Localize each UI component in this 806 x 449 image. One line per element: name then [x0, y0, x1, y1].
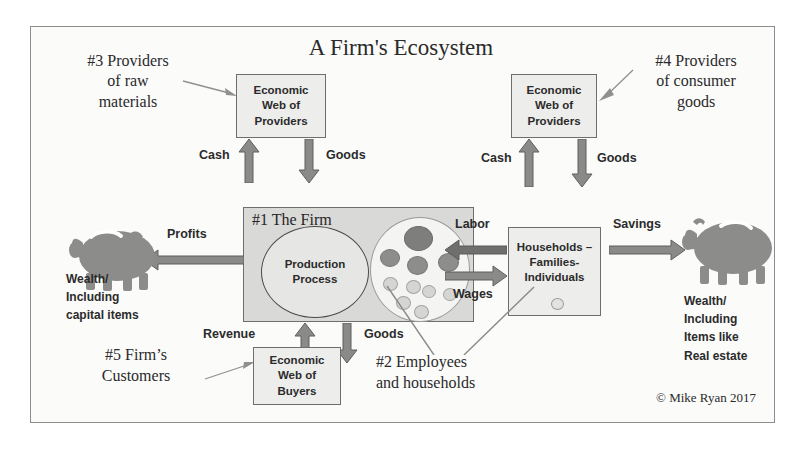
box-buyers-line2: Web of	[278, 368, 316, 383]
label-goods-left: Goods	[326, 148, 366, 162]
label-cash-left: Cash	[199, 148, 230, 162]
box-economic-web-of-providers-right[interactable]: Economic Web of Providers	[511, 74, 597, 138]
pointer-lines-employees	[386, 282, 541, 355]
box-economic-web-of-buyers[interactable]: Economic Web of Buyers	[253, 347, 341, 405]
wealth-right-line4: Real estate	[684, 347, 747, 365]
production-line1: Production	[285, 257, 346, 272]
annotation-providers-consumer-line2: of consumer	[621, 71, 771, 91]
annotation-employees-line1: #2 Employees	[376, 352, 475, 373]
annotation-customers: #5 Firm’s Customers	[61, 345, 211, 387]
piggy-bank-right-icon	[681, 213, 776, 289]
copyright-notice: © Mike Ryan 2017	[656, 390, 756, 406]
annotation-employees-line2: and households	[376, 373, 475, 394]
arrow-savings	[609, 239, 685, 261]
box-providers-left-line1: Economic	[254, 83, 309, 98]
box-buyers-line3: Buyers	[278, 384, 317, 399]
box-providers-right-line2: Web of	[535, 98, 573, 113]
production-line2: Process	[293, 272, 338, 287]
label-revenue: Revenue	[203, 327, 255, 341]
wealth-right-line1: Wealth/	[684, 292, 747, 310]
employee-dot	[380, 249, 400, 267]
annotation-providers-consumer: #4 Providers of consumer goods	[621, 51, 771, 112]
pointer-line-customers	[203, 359, 258, 383]
wealth-right-line2: Including	[684, 310, 747, 328]
arrow-goods-left	[298, 139, 320, 183]
label-cash-right: Cash	[481, 151, 512, 165]
diagram-frame: A Firm's Ecosystem #3 Providers of raw m…	[30, 26, 775, 423]
arrow-goods-right	[571, 139, 593, 187]
annotation-providers-consumer-line1: #4 Providers	[621, 51, 771, 71]
wealth-right-line3: Items like	[684, 328, 747, 346]
box-providers-right-line3: Providers	[527, 114, 580, 129]
arrow-cash-left	[238, 139, 260, 183]
pointer-line-providers-raw	[181, 77, 241, 101]
employee-dot	[404, 226, 433, 251]
box-providers-left-line2: Web of	[262, 98, 300, 113]
label-goods-right: Goods	[597, 151, 637, 165]
box-economic-web-of-providers-left[interactable]: Economic Web of Providers	[236, 74, 326, 138]
box-providers-right-line1: Economic	[527, 83, 582, 98]
box-households-line2: Families-	[530, 255, 580, 270]
pointer-line-providers-consumer	[597, 67, 637, 103]
diagram-title: A Firm's Ecosystem	[221, 35, 581, 61]
label-profits: Profits	[167, 227, 207, 241]
box-buyers-line1: Economic	[270, 353, 325, 368]
label-savings: Savings	[613, 217, 661, 231]
box-providers-left-line3: Providers	[254, 114, 307, 129]
wealth-left-line3: capital items	[66, 306, 139, 324]
annotation-employees: #2 Employees and households	[376, 352, 475, 394]
arrow-labor	[445, 239, 507, 261]
wealth-left-line1: Wealth/	[66, 270, 139, 288]
annotation-wealth-left: Wealth/ Including capital items	[66, 270, 139, 324]
annotation-providers-raw-line1: #3 Providers	[53, 51, 203, 71]
label-labor: Labor	[455, 217, 490, 231]
annotation-customers-line2: Customers	[61, 366, 211, 387]
arrow-profits	[144, 249, 244, 271]
wealth-left-line2: Including	[66, 288, 139, 306]
arrow-cash-right	[518, 139, 540, 187]
household-dot	[551, 298, 564, 310]
annotation-customers-line1: #5 Firm’s	[61, 345, 211, 366]
diagram-canvas: A Firm's Ecosystem #3 Providers of raw m…	[0, 0, 806, 449]
annotation-providers-consumer-line3: goods	[621, 92, 771, 112]
annotation-wealth-right: Wealth/ Including Items like Real estate	[684, 292, 747, 365]
ellipse-production-process[interactable]: Production Process	[261, 226, 369, 318]
employee-dot	[407, 256, 428, 275]
box-households-line1: Households –	[517, 240, 592, 255]
